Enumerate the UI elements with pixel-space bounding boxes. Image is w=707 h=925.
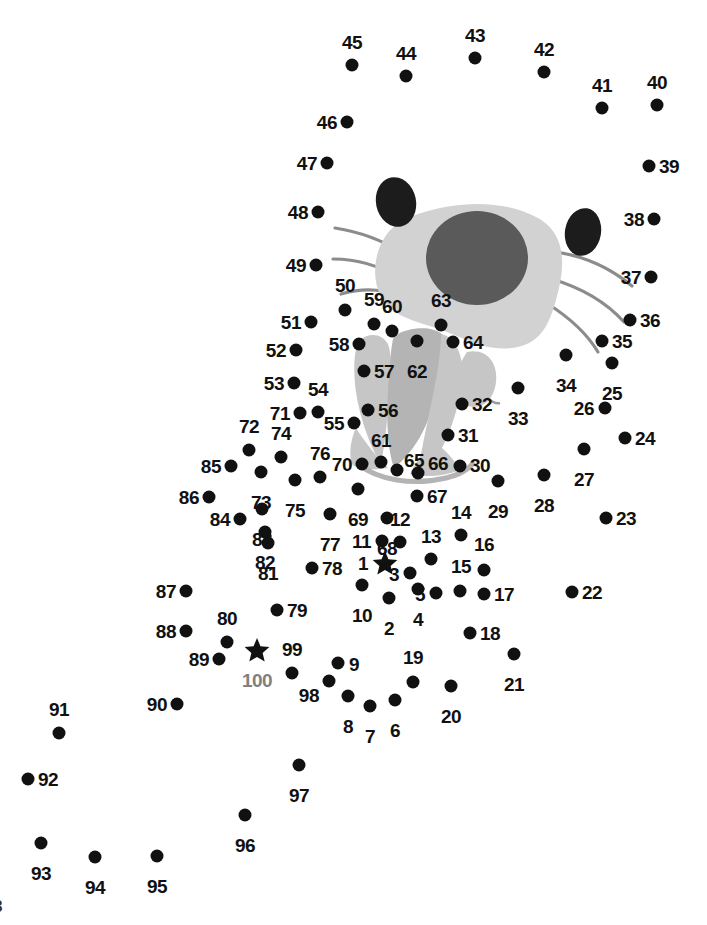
- dot-marker-77[interactable]: [324, 508, 337, 521]
- dot-marker-69[interactable]: [352, 483, 365, 496]
- dot-marker-74[interactable]: [275, 451, 288, 464]
- dot-marker-98[interactable]: [323, 675, 336, 688]
- dot-marker-47[interactable]: [321, 157, 334, 170]
- dot-marker-85[interactable]: [225, 460, 238, 473]
- dot-marker-5[interactable]: [430, 587, 443, 600]
- dot-marker-61[interactable]: [375, 456, 388, 469]
- dot-marker-93[interactable]: [35, 837, 48, 850]
- dot-label-10: 10: [352, 605, 372, 627]
- dot-marker-56[interactable]: [362, 404, 375, 417]
- dot-marker-18[interactable]: [464, 627, 477, 640]
- dot-marker-31[interactable]: [442, 429, 455, 442]
- dot-marker-26[interactable]: [599, 402, 612, 415]
- dot-marker-87[interactable]: [180, 585, 193, 598]
- dot-marker-70[interactable]: [356, 458, 369, 471]
- dot-marker-6[interactable]: [389, 694, 402, 707]
- dot-marker-22[interactable]: [566, 586, 579, 599]
- dot-marker-75[interactable]: [289, 474, 302, 487]
- dot-marker-20[interactable]: [445, 680, 458, 693]
- dot-marker-24[interactable]: [619, 432, 632, 445]
- dot-marker-78[interactable]: [306, 562, 319, 575]
- dot-marker-21[interactable]: [508, 648, 521, 661]
- dot-marker-86[interactable]: [203, 491, 216, 504]
- dot-marker-57[interactable]: [358, 365, 371, 378]
- dot-marker-43[interactable]: [469, 52, 482, 65]
- dot-marker-50[interactable]: [339, 304, 352, 317]
- dot-marker-16[interactable]: [478, 564, 491, 577]
- dot-marker-34[interactable]: [560, 349, 573, 362]
- dot-marker-60[interactable]: [386, 325, 399, 338]
- dot-marker-44[interactable]: [400, 70, 413, 83]
- dot-marker-58[interactable]: [353, 338, 366, 351]
- dot-marker-97[interactable]: [293, 759, 306, 772]
- dot-marker-99[interactable]: [286, 667, 299, 680]
- dot-marker-49[interactable]: [310, 259, 323, 272]
- dot-marker-51[interactable]: [305, 316, 318, 329]
- dot-marker-65[interactable]: [391, 464, 404, 477]
- dot-marker-41[interactable]: [596, 102, 609, 115]
- dot-marker-48[interactable]: [312, 206, 325, 219]
- dot-label-5: 5: [415, 584, 425, 606]
- dot-marker-36[interactable]: [624, 314, 637, 327]
- dot-marker-84[interactable]: [234, 513, 247, 526]
- dot-marker-40[interactable]: [651, 99, 664, 112]
- dot-marker-17[interactable]: [478, 588, 491, 601]
- dot-marker-7[interactable]: [364, 700, 377, 713]
- dot-marker-72[interactable]: [243, 444, 256, 457]
- dot-marker-80[interactable]: [221, 636, 234, 649]
- dot-marker-96[interactable]: [239, 809, 252, 822]
- dot-marker-38[interactable]: [648, 213, 661, 226]
- dot-marker-35[interactable]: [596, 335, 609, 348]
- dot-marker-2[interactable]: [383, 592, 396, 605]
- dot-marker-73[interactable]: [255, 466, 268, 479]
- dot-marker-68[interactable]: [381, 512, 394, 525]
- dot-marker-32[interactable]: [456, 398, 469, 411]
- dot-marker-91[interactable]: [53, 727, 66, 740]
- dot-marker-59[interactable]: [368, 318, 381, 331]
- dot-marker-88[interactable]: [180, 625, 193, 638]
- dot-marker-67[interactable]: [411, 490, 424, 503]
- dot-label-64: 64: [463, 332, 483, 354]
- dot-marker-30[interactable]: [454, 460, 467, 473]
- dot-label-37: 37: [621, 267, 641, 289]
- dot-marker-45[interactable]: [346, 59, 359, 72]
- dot-marker-63[interactable]: [435, 319, 448, 332]
- dot-marker-37[interactable]: [645, 271, 658, 284]
- dot-marker-14[interactable]: [455, 529, 468, 542]
- dot-label-90: 90: [147, 694, 167, 716]
- dot-marker-53[interactable]: [288, 377, 301, 390]
- dot-star-100[interactable]: [244, 637, 270, 663]
- dot-marker-66[interactable]: [412, 467, 425, 480]
- dot-marker-79[interactable]: [271, 604, 284, 617]
- dot-marker-64[interactable]: [447, 336, 460, 349]
- dot-marker-46[interactable]: [341, 116, 354, 129]
- dot-marker-39[interactable]: [643, 160, 656, 173]
- dot-marker-55[interactable]: [348, 417, 361, 430]
- dot-marker-19[interactable]: [407, 676, 420, 689]
- dot-marker-95[interactable]: [151, 850, 164, 863]
- dot-marker-92[interactable]: [22, 773, 35, 786]
- dot-marker-42[interactable]: [538, 66, 551, 79]
- dot-marker-15[interactable]: [454, 585, 467, 598]
- dot-marker-29[interactable]: [492, 475, 505, 488]
- dot-marker-54[interactable]: [312, 406, 325, 419]
- dot-marker-76[interactable]: [314, 471, 327, 484]
- dot-marker-33[interactable]: [512, 382, 525, 395]
- dot-marker-25[interactable]: [606, 357, 619, 370]
- dot-marker-83[interactable]: [256, 503, 269, 516]
- dot-label-94: 94: [85, 877, 105, 899]
- dot-marker-52[interactable]: [290, 344, 303, 357]
- dot-marker-62[interactable]: [411, 335, 424, 348]
- dot-marker-89[interactable]: [213, 653, 226, 666]
- dot-marker-90[interactable]: [171, 698, 184, 711]
- dot-marker-94[interactable]: [89, 851, 102, 864]
- dot-marker-13[interactable]: [425, 553, 438, 566]
- dot-marker-23[interactable]: [600, 512, 613, 525]
- dot-marker-8[interactable]: [342, 690, 355, 703]
- dot-marker-27[interactable]: [578, 443, 591, 456]
- dot-marker-10[interactable]: [356, 579, 369, 592]
- dot-marker-28[interactable]: [538, 469, 551, 482]
- dot-marker-3[interactable]: [404, 567, 417, 580]
- dot-marker-9[interactable]: [332, 657, 345, 670]
- dot-marker-71[interactable]: [294, 407, 307, 420]
